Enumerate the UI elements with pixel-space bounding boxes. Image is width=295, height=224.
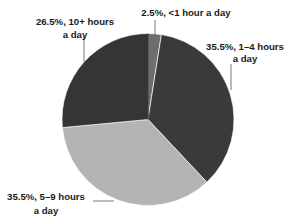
label-1to4-line1: 35.5%, 1–4 hours bbox=[206, 41, 284, 52]
label-5to9-line2: a day bbox=[34, 205, 59, 216]
label-1to4-line2: a day bbox=[233, 53, 258, 64]
label-10plus-line2: a day bbox=[63, 29, 88, 40]
label-10plus-line1: 26.5%, 10+ hours bbox=[36, 16, 114, 27]
label-5to9-line1: 35.5%, 5–9 hours bbox=[7, 191, 85, 202]
slice-10-plus-hours bbox=[62, 33, 148, 127]
label-lt1-line1: 2.5%, <1 hour a day bbox=[141, 7, 231, 18]
pie-slices bbox=[62, 33, 234, 205]
pie-chart: 2.5%, <1 hour a day 35.5%, 1–4 hours a d… bbox=[0, 0, 295, 224]
